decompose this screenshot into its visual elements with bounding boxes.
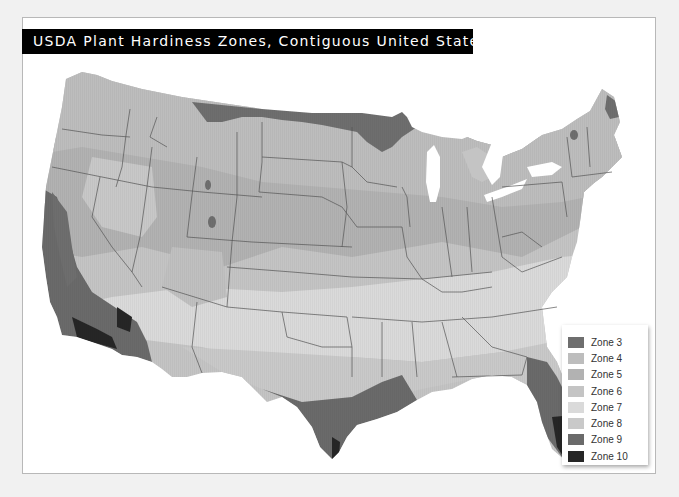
zone-10-swatch <box>568 451 584 462</box>
zone-4-swatch <box>568 353 584 364</box>
zone-8-swatch <box>568 418 584 429</box>
legend-item-zone-7: Zone 7 <box>562 399 648 415</box>
legend-item-zone-9: Zone 9 <box>562 432 648 448</box>
zone-7-swatch <box>568 402 584 413</box>
legend-label: Zone 8 <box>591 418 622 429</box>
map-title: USDA Plant Hardiness Zones, Contiguous U… <box>22 29 473 54</box>
legend-label: Zone 6 <box>591 386 622 397</box>
legend-item-zone-8: Zone 8 <box>562 415 648 431</box>
legend-label: Zone 7 <box>591 402 622 413</box>
zone-3-swatch <box>568 337 584 348</box>
legend-label: Zone 3 <box>591 337 622 348</box>
legend-label: Zone 4 <box>591 353 622 364</box>
zone-5-swatch <box>568 369 584 380</box>
legend-item-zone-3: Zone 3 <box>562 334 648 350</box>
legend-item-zone-4: Zone 4 <box>562 350 648 366</box>
legend-label: Zone 5 <box>591 369 622 380</box>
legend-item-zone-6: Zone 6 <box>562 383 648 399</box>
legend-item-zone-10: Zone 10 <box>562 448 648 464</box>
zone-6-swatch <box>568 386 584 397</box>
legend-item-zone-5: Zone 5 <box>562 367 648 383</box>
us-hardiness-map <box>22 17 656 474</box>
zone-9-swatch <box>568 434 584 445</box>
legend-label: Zone 10 <box>591 451 628 462</box>
zone-legend: Zone 3 Zone 4 Zone 5 Zone 6 Zone 7 Zone … <box>562 325 648 465</box>
legend-label: Zone 9 <box>591 434 622 445</box>
